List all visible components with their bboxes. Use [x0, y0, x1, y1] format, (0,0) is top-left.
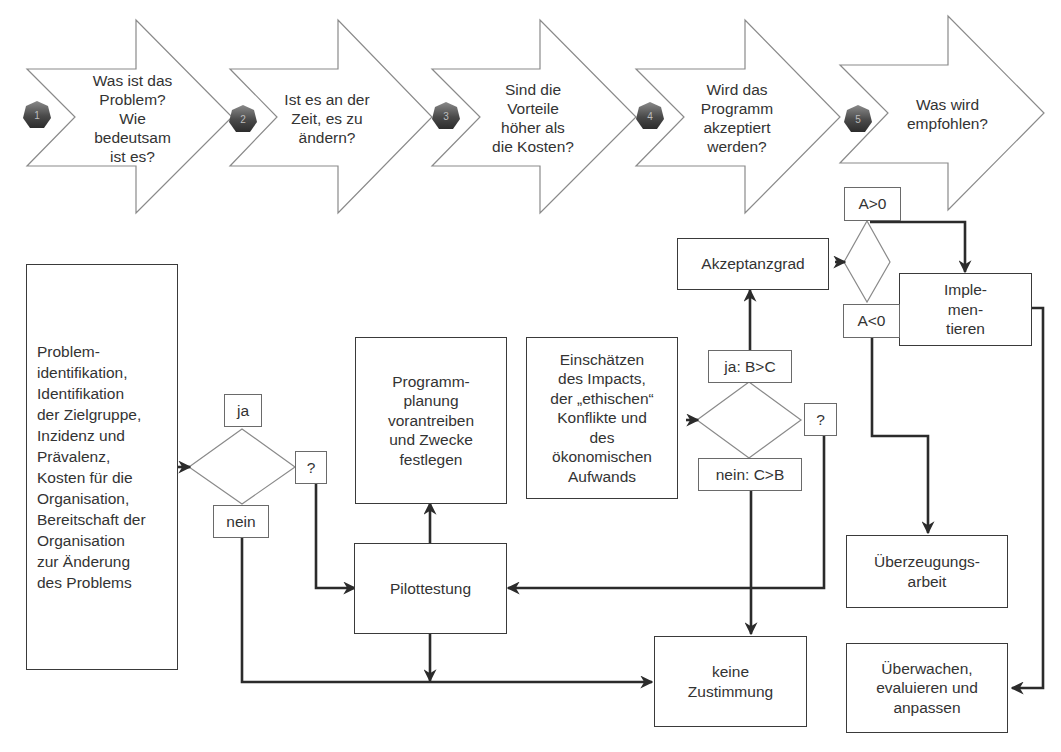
no-approval-box: keine Zustimmung [654, 636, 807, 727]
step-number: 5 [843, 104, 873, 134]
step-badge-2: 2 [228, 104, 258, 134]
step-badge-4: 4 [635, 101, 665, 131]
step-badge-5: 5 [843, 104, 873, 134]
step-label-4: Wird das Programm akzeptiert werden? [682, 66, 792, 170]
decision-diamond-1 [189, 429, 295, 504]
implement-box: Imple- men- tieren [899, 273, 1032, 346]
decision-1-unknown-label: ? [295, 451, 327, 484]
decision-diamond-3 [844, 221, 890, 302]
problem-identification-box: Problem- identifikation, Identifikation … [26, 264, 178, 670]
persuasion-box: Überzeugungs- arbeit [846, 535, 1008, 608]
decision-diamond-2 [697, 382, 801, 458]
decision-2-yes-label: ja: B>C [708, 350, 792, 383]
impact-assessment-box: Einschätzen des Impacts, der „ethischen“… [526, 337, 678, 499]
step-badge-3: 3 [431, 101, 461, 131]
pilot-testing-box: Pilottestung [354, 543, 507, 634]
decision-3-positive-label: A>0 [844, 187, 901, 221]
step-label-2: Ist es an der Zeit, es zu ändern? [272, 66, 382, 170]
step-number: 1 [22, 100, 52, 130]
decision-1-yes-label: ja [224, 394, 262, 427]
decision-3-negative-label: A<0 [843, 304, 900, 338]
step-label-3: Sind die Vorteile höher als die Kosten? [478, 66, 588, 170]
acceptance-level-box: Akzeptanzgrad [677, 238, 829, 290]
decision-2-unknown-label: ? [804, 403, 837, 436]
step-number: 4 [635, 101, 665, 131]
step-badge-1: 1 [22, 100, 52, 130]
monitor-evaluate-adjust-box: Überwachen, evaluieren und anpassen [846, 643, 1008, 733]
step-label-1: Was ist das Problem? Wie bedeutsam ist e… [80, 66, 185, 170]
decision-2-no-label: nein: C>B [698, 458, 802, 491]
program-planning-box: Programm- planung vorantreiben und Zweck… [355, 337, 507, 504]
step-number: 2 [228, 104, 258, 134]
step-number: 3 [431, 101, 461, 131]
step-label-5: Was wird empfohlen? [890, 62, 1005, 166]
decision-1-no-label: nein [213, 505, 269, 538]
